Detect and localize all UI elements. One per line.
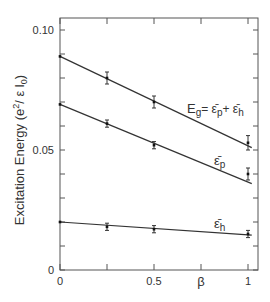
y-tick-label-0.10: 0.10: [33, 24, 54, 36]
data-point: [153, 101, 156, 104]
data-point: [247, 173, 250, 176]
ep-label-p: p: [220, 159, 226, 170]
y-axis-title-main: Excitation Energy (e: [12, 109, 27, 225]
y-tick-label-0.05: 0.05: [33, 144, 54, 156]
plot-frame: [60, 18, 258, 270]
x-axis-title: β: [197, 274, 204, 289]
data-point: [153, 144, 156, 147]
y-axis-title-close: ): [12, 75, 27, 79]
data-point: [106, 122, 109, 125]
eh-label-h: h: [220, 222, 226, 233]
series-label-eh: ε̄h: [214, 216, 225, 233]
x-tick-label-0.5: 0.5: [146, 275, 161, 287]
series-label-eg: Eg= ε̄p+ ε̄h: [187, 101, 244, 118]
data-point: [153, 228, 156, 231]
series-layer: [59, 55, 252, 238]
data-point: [106, 77, 109, 80]
data-point: [247, 233, 250, 236]
y-axis-title-tail: / ε l: [12, 84, 27, 104]
series-label-ep: ε̄p: [214, 153, 226, 170]
eg-label-E: E: [187, 101, 196, 116]
y-tick-label-0: 0: [48, 264, 54, 276]
data-point: [59, 221, 62, 224]
x-tick-label-0: 0: [57, 275, 63, 287]
data-point: [106, 226, 109, 229]
x-tick-label-1: 1: [245, 275, 251, 287]
chart-canvas: 0.10 0.05 0 0 0.5 1 β Excitation Energy …: [0, 0, 270, 302]
data-point: [59, 55, 62, 58]
data-point: [247, 142, 250, 145]
eg-label-h: h: [238, 107, 244, 118]
data-point: [59, 103, 62, 106]
y-axis-title: Excitation Energy (e2/ ε l0): [11, 75, 29, 225]
fit-line: [60, 104, 252, 183]
